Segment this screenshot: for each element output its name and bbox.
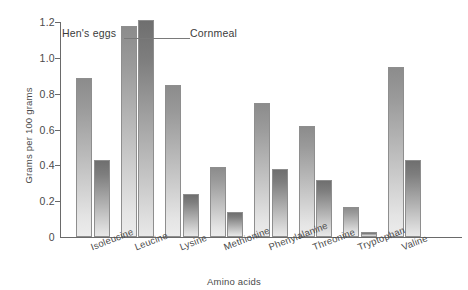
annotation-hens-eggs: Hen's eggs	[62, 27, 116, 39]
bar-chart: Grams per 100 grams 00.20.40.60.81.01.2 …	[0, 0, 468, 290]
y-axis-tick-label: 1.0	[29, 52, 55, 64]
annotation-cornmeal: Cornmeal	[190, 27, 237, 39]
bar	[272, 169, 288, 237]
bar	[183, 194, 199, 237]
x-axis-title: Amino acids	[0, 276, 468, 287]
y-axis-tick-mark	[55, 94, 60, 95]
y-axis-tick-label: 0.4	[29, 159, 55, 171]
bar	[76, 78, 92, 237]
y-axis-tick-mark	[55, 58, 60, 59]
bar	[405, 160, 421, 237]
y-axis-tick-labels: 00.20.40.60.81.01.2	[29, 0, 55, 290]
plot-area	[60, 22, 462, 237]
y-axis-line	[60, 22, 61, 237]
y-axis-tick-mark	[55, 130, 60, 131]
y-axis-tick-label: 0.6	[29, 124, 55, 136]
y-axis-tick-mark	[55, 165, 60, 166]
annotation-leader-line-cornmeal	[160, 38, 190, 39]
y-axis-tick-mark	[55, 22, 60, 23]
bar	[388, 67, 404, 237]
y-axis-tick-label: 1.2	[29, 16, 55, 28]
y-axis-tick-label: 0	[29, 231, 55, 243]
bar	[94, 160, 110, 237]
bar	[210, 167, 226, 237]
bar	[254, 103, 270, 237]
bar	[138, 20, 154, 237]
y-axis-tick-mark	[55, 201, 60, 202]
y-axis-tick-label: 0.8	[29, 88, 55, 100]
bar	[299, 126, 315, 237]
bar	[227, 212, 243, 237]
bar	[121, 26, 137, 237]
bar	[165, 85, 181, 237]
y-axis-tick-label: 0.2	[29, 195, 55, 207]
